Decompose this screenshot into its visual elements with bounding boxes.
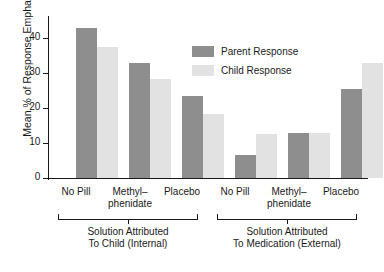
legend: Parent Response Child Response (192, 44, 298, 82)
category-label-group1-placebo: Placebo (152, 186, 212, 198)
y-tick-mark-0 (43, 178, 48, 179)
y-tick-label-0: 0 (35, 171, 40, 183)
legend-label-parent: Parent Response (221, 46, 298, 57)
bar-child-group1-no-pill (97, 47, 118, 178)
group-bracket-left-cap-external (217, 214, 218, 220)
group-label-internal: Solution Attributed To Child (Internal) (53, 226, 203, 250)
y-tick-30: 30 (0, 73, 48, 74)
legend-item-parent-response: Parent Response (192, 44, 298, 59)
bar-chart-figure: Mean % of Response Emphasis 0 10 20 30 4… (0, 0, 384, 272)
bar-child-group2-no-pill (256, 134, 277, 178)
y-tick-label-40: 40 (29, 31, 40, 43)
legend-item-child-response: Child Response (192, 63, 298, 78)
group-bracket-external (217, 212, 357, 221)
group-bracket-center-tick-external (287, 219, 288, 224)
category-label-group1-no-pill: No Pill (46, 186, 106, 198)
y-axis-ticks: 0 10 20 30 40 (0, 0, 48, 272)
bar-child-group1-placebo (203, 114, 224, 178)
bar-child-group2-placebo (362, 63, 383, 179)
x-axis-line (48, 178, 368, 179)
y-tick-label-10: 10 (29, 136, 40, 148)
legend-swatch-icon-child (192, 65, 214, 76)
category-label-group2-no-pill: No Pill (205, 186, 265, 198)
y-tick-label-20: 20 (29, 101, 40, 113)
bar-parent-group1-no-pill (76, 28, 97, 179)
group-bracket-left-cap-internal (58, 214, 59, 220)
legend-label-child: Child Response (221, 65, 292, 76)
y-tick-20: 20 (0, 108, 48, 109)
group-bracket-right-cap-internal (197, 214, 198, 220)
group-label-external: Solution Attributed To Medication (Exter… (207, 226, 367, 250)
bar-parent-group2-no-pill (235, 155, 256, 178)
y-tick-40: 40 (0, 38, 48, 39)
bar-child-group2-methylphenidate (309, 133, 330, 179)
group-bracket-right-cap-external (356, 214, 357, 220)
bar-parent-group1-methylphenidate (129, 63, 150, 178)
bars-layer (48, 18, 368, 178)
legend-swatch-icon-parent (192, 46, 214, 57)
group-bracket-internal (58, 212, 198, 221)
y-tick-0: 0 (0, 178, 48, 179)
category-label-group2-placebo: Placebo (311, 186, 371, 198)
y-tick-label-30: 30 (29, 66, 40, 78)
y-tick-10: 10 (0, 143, 48, 144)
bar-child-group1-methylphenidate (150, 79, 171, 178)
bar-parent-group1-placebo (182, 96, 203, 178)
bar-parent-group2-placebo (341, 89, 362, 178)
bar-parent-group2-methylphenidate (288, 133, 309, 178)
group-bracket-center-tick-internal (128, 219, 129, 224)
